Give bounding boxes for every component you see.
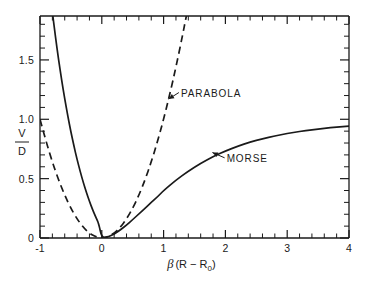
annotation-label-text: PARABOLA — [181, 88, 241, 99]
y-tick-label: 1.5 — [19, 54, 34, 66]
x-tick-label: 1 — [161, 242, 167, 254]
y-tick-label: 1.0 — [19, 113, 34, 125]
y-axis-label-denominator: D — [18, 145, 26, 157]
figure-background — [0, 0, 368, 286]
x-tick-label: 0 — [99, 242, 105, 254]
morse-potential-figure: -101234 00.51.01.5 PARABOLAMORSE β(R − R… — [0, 0, 368, 286]
y-axis-label-numerator: V — [18, 127, 26, 139]
x-tick-label: 2 — [222, 242, 228, 254]
y-tick-label: 0 — [28, 232, 34, 244]
x-tick-label: 3 — [284, 242, 290, 254]
plot-canvas: -101234 00.51.01.5 PARABOLAMORSE β(R − R… — [0, 0, 368, 286]
x-tick-label: 4 — [346, 242, 352, 254]
x-tick-label: -1 — [35, 242, 45, 254]
y-tick-label: 0.5 — [19, 173, 34, 185]
annotation-label-text: MORSE — [227, 153, 268, 164]
